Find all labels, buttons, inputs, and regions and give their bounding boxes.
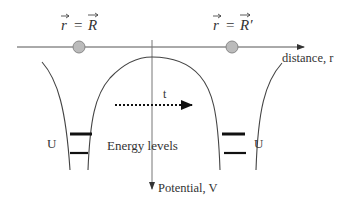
svg-text:=: = xyxy=(74,17,82,33)
right-position-label: r = R′ xyxy=(213,13,253,33)
time-label: t xyxy=(163,87,167,101)
potential-axis-label: Potential, V xyxy=(158,181,218,195)
right-well-label: U xyxy=(254,136,264,151)
svg-text:R′: R′ xyxy=(239,17,253,33)
right-well-outer-curve xyxy=(256,63,282,170)
svg-text:r: r xyxy=(61,17,67,33)
left-well-label: U xyxy=(47,136,57,151)
distance-axis-label: distance, r xyxy=(282,51,334,65)
left-well-outer-curve xyxy=(42,62,70,170)
svg-text:R: R xyxy=(87,17,97,33)
energy-levels-label: Energy levels xyxy=(107,138,178,153)
central-barrier-curve xyxy=(88,57,220,170)
particle-left xyxy=(73,41,85,53)
particle-right xyxy=(226,41,238,53)
potential-well-diagram: distance, r Potential, V r = R r = R′ U … xyxy=(0,0,356,203)
svg-text:=: = xyxy=(226,17,234,33)
svg-text:r: r xyxy=(213,17,219,33)
left-position-label: r = R xyxy=(61,13,98,33)
